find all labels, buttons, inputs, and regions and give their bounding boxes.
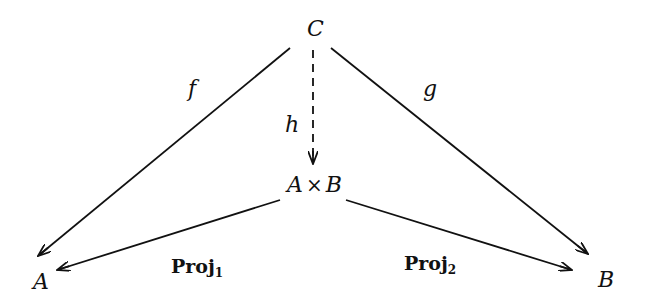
label-proj1: Proj1	[171, 257, 223, 279]
arrow-proj2	[346, 200, 572, 270]
proj2-subscript: 2	[448, 263, 456, 277]
label-proj2: Proj2	[404, 254, 456, 276]
product-right: B	[326, 172, 342, 197]
node-b: B	[598, 269, 614, 291]
label-g: g	[423, 78, 437, 100]
diagram-canvas	[0, 0, 646, 304]
product-left: A	[287, 172, 303, 197]
proj2-text: Proj	[404, 252, 448, 274]
proj1-subscript: 1	[215, 266, 223, 280]
label-h: h	[285, 114, 299, 136]
node-product: A×B	[287, 174, 342, 196]
node-c: C	[307, 18, 324, 40]
arrow-f	[38, 48, 290, 256]
label-f: f	[188, 78, 196, 100]
arrow-proj1	[57, 200, 280, 270]
proj1-text: Proj	[171, 255, 215, 277]
times-symbol: ×	[303, 173, 326, 197]
node-a: A	[33, 271, 49, 293]
arrow-g	[331, 48, 588, 254]
